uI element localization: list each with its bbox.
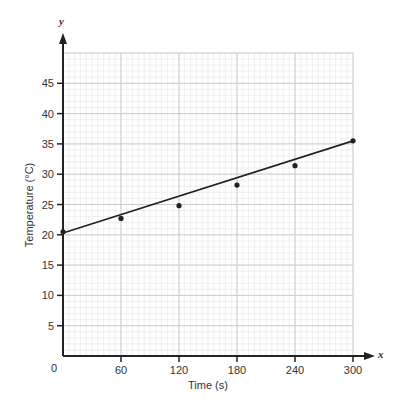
data-point <box>350 138 355 143</box>
y-axis-arrow-icon <box>59 33 67 44</box>
y-tick-label: 25 <box>42 199 54 211</box>
data-point <box>118 216 123 221</box>
y-axis-title: Temperature (°C) <box>23 163 35 247</box>
y-tick-label: 15 <box>42 259 54 271</box>
y-tick-label: 30 <box>42 168 54 180</box>
y-tick-label: 40 <box>42 108 54 120</box>
data-point <box>234 183 239 188</box>
data-point <box>292 163 297 168</box>
x-axis-title: Time (s) <box>188 379 228 391</box>
y-tick-label: 20 <box>42 229 54 241</box>
x-tick-label: 180 <box>228 364 246 376</box>
scatter-chart: 6012018024030051015202530354045 Time (s)… <box>0 0 399 410</box>
data-point <box>60 229 65 234</box>
x-axis-letter: x <box>377 348 384 360</box>
chart-axes <box>57 33 375 362</box>
x-tick-label: 120 <box>170 364 188 376</box>
y-tick-label: 45 <box>42 77 54 89</box>
chart-grid <box>63 53 353 356</box>
data-point <box>176 203 181 208</box>
x-tick-label: 300 <box>344 364 362 376</box>
y-tick-label: 10 <box>42 289 54 301</box>
origin-label: 0 <box>51 362 57 374</box>
y-tick-label: 5 <box>48 320 54 332</box>
y-tick-label: 35 <box>42 138 54 150</box>
y-axis-letter: y <box>57 15 64 27</box>
x-axis-arrow-icon <box>364 352 375 360</box>
x-tick-label: 240 <box>286 364 304 376</box>
x-tick-label: 60 <box>115 364 127 376</box>
